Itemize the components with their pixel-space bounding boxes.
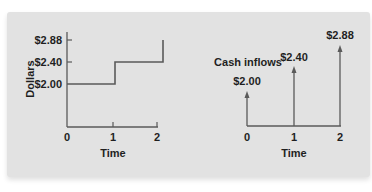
right-cashflow-chart: $2.00 $2.40 $2.88 Cash inflows 0 1 2 Tim…	[214, 29, 354, 159]
left-step-chart: $2.88 $2.40 $2.00 0 1 2 Time Dollars	[24, 32, 163, 159]
y-tick-label: $2.00	[34, 78, 62, 90]
x-axis-title: Time	[100, 147, 125, 159]
arrow-head-icon	[338, 45, 343, 52]
x-tick-label: 2	[337, 131, 343, 143]
x-tick-label: 0	[244, 131, 250, 143]
arrow-head-icon	[245, 91, 250, 98]
x-axis-title: Time	[281, 147, 306, 159]
x-tick-label: 2	[154, 131, 160, 143]
y-tick-label: $2.40	[34, 56, 62, 68]
charts-canvas: $2.88 $2.40 $2.00 0 1 2 Time Dollars $2.…	[0, 0, 372, 192]
x-tick-label: 1	[291, 131, 297, 143]
y-tick-label: $2.88	[34, 34, 62, 46]
x-tick-label: 0	[64, 131, 70, 143]
arrow-value-label: $2.88	[326, 29, 354, 41]
arrow-head-icon	[292, 66, 297, 73]
step-line	[67, 40, 163, 84]
x-tick-label: 1	[110, 131, 116, 143]
arrow-value-label: $2.40	[280, 51, 308, 63]
y-axis-title: Dollars	[24, 60, 36, 97]
arrow-value-label: $2.00	[233, 75, 261, 87]
chart-title: Cash inflows	[214, 56, 282, 68]
